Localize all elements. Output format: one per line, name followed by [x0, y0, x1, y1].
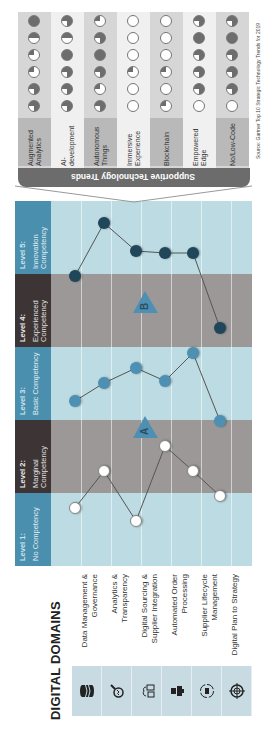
rating-pie-icon: [28, 100, 40, 112]
trend-row: Blockchain: [150, 12, 183, 168]
node: [159, 247, 171, 259]
trend-row: Augmented Analytics: [18, 12, 51, 168]
magnifier-chart-icon: [102, 666, 132, 716]
trend-label: AI-development: [51, 118, 84, 166]
node: [159, 440, 171, 452]
marker-a: A: [139, 428, 150, 435]
node: [130, 515, 142, 527]
domain-label: Digital Sourcing & Supplier Integration: [140, 574, 159, 660]
competency-matrix: Level 1:No Competency Level 2:Marginal C…: [15, 201, 252, 566]
node: [69, 270, 81, 282]
rating-pie-icon: [94, 32, 106, 44]
trend-label: Autonomous Things: [84, 118, 117, 166]
infographic-canvas: DIGITAL DOMAINS Data Management & Govern…: [0, 0, 268, 734]
domain-label: Data Management & Governance: [80, 574, 99, 660]
target-icon: [222, 666, 252, 716]
rating-pie-icon: [28, 15, 40, 27]
node: [69, 395, 81, 407]
node: [98, 377, 110, 389]
bracket-connector: [0, 184, 268, 204]
rating-pie-icon: [127, 32, 139, 44]
rating-pie-icon: [160, 66, 172, 78]
rating-pie-icon: [226, 15, 238, 27]
rating-pie-icon: [127, 66, 139, 78]
trend-label: No/Low-Code: [216, 118, 249, 166]
rating-pie-icon: [94, 83, 106, 95]
trend-label: Blockchain: [150, 118, 183, 166]
domain-label: Supplier Lifecycle Management: [200, 574, 219, 660]
trend-row: Empowered Edge: [183, 12, 216, 168]
rating-pie-icon: [226, 66, 238, 78]
node: [214, 415, 226, 427]
node: [214, 490, 226, 502]
rating-pie-icon: [226, 83, 238, 95]
cycle-truck-icon: [192, 666, 222, 716]
rating-pie-icon: [61, 100, 73, 112]
node: [130, 362, 142, 374]
supportive-trends-panel: Supportive Technology Trends Augmented A…: [18, 12, 250, 187]
trend-row: Autonomous Things: [84, 12, 117, 168]
rating-pie-icon: [94, 100, 106, 112]
rating-pie-icon: [127, 100, 139, 112]
rating-pie-icon: [94, 49, 106, 61]
rating-pie-icon: [226, 49, 238, 61]
trend-row: Immersive Experience: [117, 12, 150, 168]
marker-b: B: [139, 303, 150, 310]
rating-pie-icon: [94, 66, 106, 78]
rating-pie-icon: [28, 49, 40, 61]
rating-pie-icon: [160, 15, 172, 27]
trend-label: Immersive Experience: [117, 118, 150, 166]
rating-pie-icon: [193, 66, 205, 78]
trend-row: AI-development: [51, 12, 84, 168]
domain-icon-column: [72, 666, 252, 716]
rating-pie-icon: [193, 32, 205, 44]
node: [98, 465, 110, 477]
database-icon: [72, 666, 102, 716]
rating-pie-icon: [61, 32, 73, 44]
rating-pie-icon: [94, 15, 106, 27]
node: [187, 465, 199, 477]
rating-pie-icon: [61, 66, 73, 78]
rating-pie-icon: [193, 49, 205, 61]
domain-label: Digital Plan to Strategy: [230, 574, 240, 660]
trend-row: No/Low-Code: [216, 12, 249, 168]
rating-pie-icon: [226, 100, 238, 112]
rating-pie-icon: [127, 49, 139, 61]
rating-pie-icon: [127, 15, 139, 27]
domain-label: Analytics & Transparency: [110, 574, 129, 660]
trend-label: Empowered Edge: [183, 118, 216, 166]
domain-label: Automated Order Processing: [170, 574, 189, 660]
rating-pie-icon: [61, 49, 73, 61]
rating-pie-icon: [193, 15, 205, 27]
trends-header: Supportive Technology Trends: [18, 168, 250, 187]
node: [130, 245, 142, 257]
rating-pie-icon: [28, 32, 40, 44]
rating-pie-icon: [160, 100, 172, 112]
source-note: Source: Gartner Top 10 Strategic Technol…: [255, 23, 261, 159]
node: [69, 502, 81, 514]
rating-pie-icon: [61, 83, 73, 95]
rating-pie-icon: [28, 66, 40, 78]
rating-pie-icon: [193, 83, 205, 95]
cloud-devices-icon: [132, 666, 162, 716]
node: [187, 247, 199, 259]
node: [159, 375, 171, 387]
rating-pie-icon: [160, 49, 172, 61]
rating-pie-icon: [28, 83, 40, 95]
page-title: DIGITAL DOMAINS: [48, 601, 63, 720]
rating-pie-icon: [226, 32, 238, 44]
rating-pie-icon: [193, 100, 205, 112]
trend-label: Augmented Analytics: [18, 118, 51, 166]
robot-icon: [162, 666, 192, 716]
node: [214, 322, 226, 334]
rating-pie-icon: [160, 32, 172, 44]
node: [98, 217, 110, 229]
rating-pie-icon: [61, 15, 73, 27]
node: [187, 347, 199, 359]
rating-pie-icon: [127, 83, 139, 95]
rating-pie-icon: [160, 83, 172, 95]
